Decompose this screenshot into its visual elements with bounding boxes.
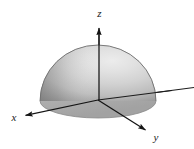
y-axis-label: y xyxy=(153,131,159,143)
x-axis-label: x xyxy=(11,111,17,123)
hemisphere-solid xyxy=(34,44,156,118)
z-axis-label: z xyxy=(96,7,102,19)
figure-container: z x y xyxy=(0,0,194,149)
coordinate-system-figure: z x y xyxy=(0,0,194,149)
hemisphere-limb-shadow xyxy=(34,44,96,106)
